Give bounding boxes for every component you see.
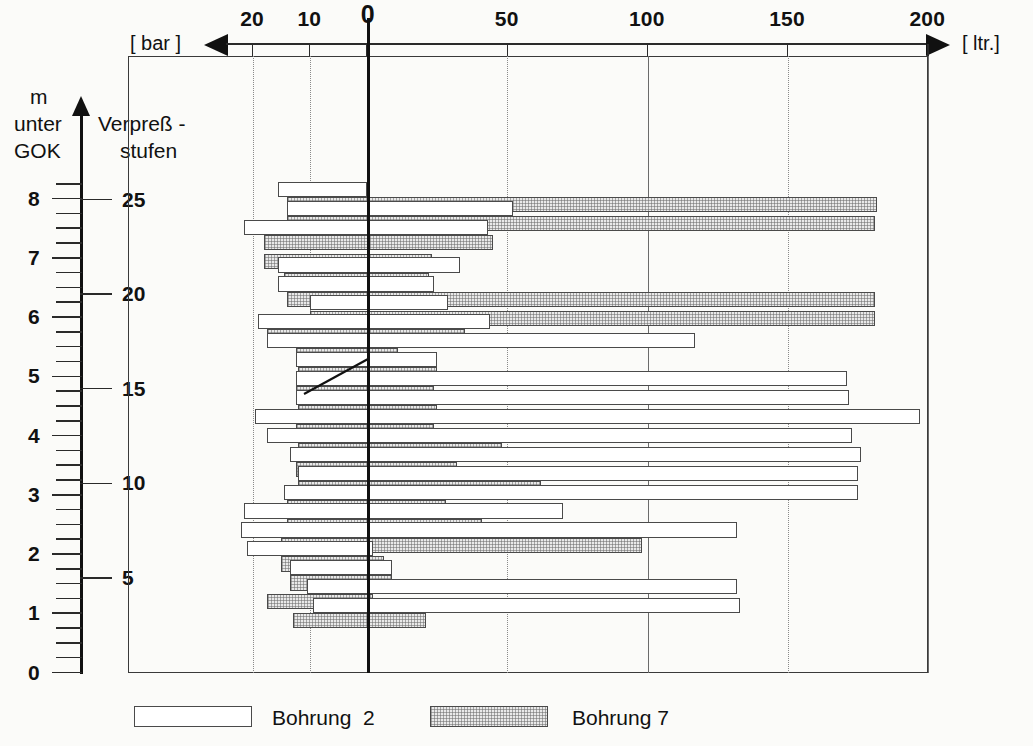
metre-minor-tick: [56, 287, 82, 289]
metre-tick-0: [52, 672, 82, 674]
right-unit-label: [ ltr.]: [962, 33, 1000, 53]
xtick-bar-20-label: 20: [240, 8, 264, 29]
bar-stufe-3-b2: [313, 598, 740, 613]
metre-label-1: 1: [28, 602, 40, 623]
metre-label-3: 3: [28, 484, 40, 505]
metre-minor-tick: [56, 479, 82, 481]
metre-minor-tick: [56, 450, 82, 452]
stage-tick-25: [80, 199, 112, 201]
metre-minor-tick: [56, 183, 82, 185]
xtick-ltr-100-label: 100: [629, 8, 665, 29]
bar-stufe-4-b2: [307, 579, 737, 594]
metre-minor-tick: [56, 642, 82, 644]
metre-label-5: 5: [28, 365, 40, 386]
metre-tick-6: [52, 316, 82, 318]
xtick-bar-20-tick: [252, 44, 253, 56]
bar-stufe-17-b2: [267, 333, 695, 348]
xtick-ltr-50-label: 50: [495, 8, 519, 29]
zero-axis-line: [367, 18, 370, 673]
legend-label-bohrung-2: Bohrung 2: [272, 707, 375, 728]
connector-line: [300, 350, 380, 400]
metre-minor-tick: [56, 390, 82, 392]
metre-minor-tick: [56, 627, 82, 629]
metre-minor-tick: [56, 598, 82, 600]
gridline-bar-20: [253, 56, 254, 673]
metre-minor-tick: [56, 301, 82, 303]
stage-tick-5: [80, 577, 112, 579]
right-axis-arrow: [926, 34, 950, 56]
metre-minor-tick: [56, 331, 82, 333]
bar-stufe-24-b2: [287, 201, 513, 216]
metre-tick-8: [52, 198, 82, 200]
metre-label-0: 0: [28, 662, 40, 683]
xtick-ltr-100-tick: [647, 44, 648, 56]
bar-stufe-20-b2: [278, 276, 434, 291]
y-axis-label-line3: GOK: [14, 140, 61, 161]
metre-minor-tick: [56, 420, 82, 422]
metre-minor-tick: [56, 509, 82, 511]
xtick-ltr-200-label: 200: [909, 8, 945, 29]
bar-stufe-18-b2: [258, 314, 490, 329]
gridline-ltr-150: [788, 56, 789, 673]
horizontal-axis-line: [226, 43, 926, 45]
metre-label-6: 6: [28, 306, 40, 327]
metre-tick-4: [52, 435, 82, 437]
metre-minor-tick: [56, 213, 82, 215]
bar-stufe-11-b2: [290, 447, 861, 462]
metre-tick-7: [52, 257, 82, 259]
metre-minor-tick: [56, 538, 82, 540]
metre-minor-tick: [56, 464, 82, 466]
bar-stufe-10-b2: [298, 466, 858, 481]
chart-figure: [ bar ] [ ltr.] 2010050100150200 m unter…: [0, 0, 1033, 746]
bar-stufe-13-b2: [255, 409, 919, 424]
bar-stufe-5-b2: [290, 560, 392, 575]
bar-stufe-9-b2: [284, 485, 858, 500]
metre-label-2: 2: [28, 543, 40, 564]
bar-stufe-23-b2: [244, 220, 488, 235]
xtick-ltr-200-tick: [927, 44, 928, 56]
xtick-ltr-150-label: 150: [769, 8, 805, 29]
metre-label-8: 8: [28, 188, 40, 209]
metre-minor-tick: [56, 657, 82, 659]
bar-stufe-7-b2: [241, 522, 737, 537]
bar-stufe-12-b2: [267, 428, 852, 443]
metre-minor-tick: [56, 272, 82, 274]
xtick-bar-10-tick: [309, 44, 310, 56]
y-axis-label-line1: m: [30, 86, 48, 107]
bar-stufe-8-b2: [244, 503, 563, 518]
metre-minor-tick: [56, 227, 82, 229]
bar-stufe-6-b2: [247, 541, 373, 556]
y-axis-line: [80, 112, 83, 674]
left-unit-label: [ bar ]: [130, 33, 181, 53]
metre-minor-tick: [56, 242, 82, 244]
stage-tick-10: [80, 483, 112, 485]
bar-stufe-19-b2: [310, 295, 449, 310]
metre-minor-tick: [56, 583, 82, 585]
bar-stufe-3-b7: [293, 613, 426, 628]
legend-swatch-bohrung-2: [134, 706, 252, 727]
metre-minor-tick: [56, 524, 82, 526]
metre-minor-tick: [56, 346, 82, 348]
metre-tick-3: [52, 494, 82, 496]
metre-minor-tick: [56, 405, 82, 407]
metre-tick-1: [52, 612, 82, 614]
metre-minor-tick: [56, 568, 82, 570]
y-axis-label-line2: unter: [14, 113, 62, 134]
bar-stufe-23-b7: [264, 235, 493, 250]
gridline-ltr-200: [928, 56, 929, 673]
legend-label-bohrung-7: Bohrung 7: [572, 707, 669, 728]
stage-tick-20: [80, 293, 112, 295]
xtick-ltr-150-tick: [787, 44, 788, 56]
xtick-ltr-50-tick: [507, 44, 508, 56]
metre-tick-5: [52, 376, 82, 378]
left-axis-arrow: [204, 34, 228, 56]
stage-tick-15: [80, 388, 112, 390]
metre-minor-tick: [56, 361, 82, 363]
legend-swatch-bohrung-7: [430, 706, 548, 727]
bar-stufe-25-b2: [278, 182, 367, 197]
xtick-bar-10-label: 10: [297, 8, 321, 29]
metre-label-4: 4: [28, 425, 40, 446]
metre-label-7: 7: [28, 247, 40, 268]
metre-tick-2: [52, 553, 82, 555]
